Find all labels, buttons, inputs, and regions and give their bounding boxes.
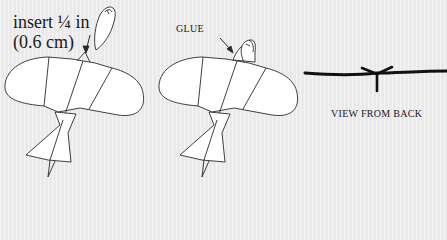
view-from-back-label: VIEW FROM BACK xyxy=(331,108,422,119)
tail-shape xyxy=(26,112,76,162)
insert-label-line2: (0.6 cm) xyxy=(13,32,90,52)
insert-measurement-label: insert ¼ in (0.6 cm) xyxy=(13,12,90,52)
insert-label-line1: insert ¼ in xyxy=(13,12,90,32)
plane-diagram-step2 xyxy=(159,38,298,177)
glue-label: GLUE xyxy=(176,23,204,34)
nose-piece xyxy=(95,7,116,50)
back-view-diagram xyxy=(305,67,447,91)
